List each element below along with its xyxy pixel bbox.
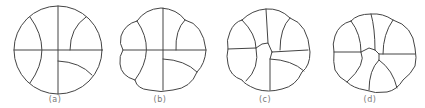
panel-d: (d) [317,0,423,108]
panel-label-c: (c) [212,95,318,104]
panel-c: (c) [212,0,318,108]
cell-division-diagram-a [2,0,108,95]
panel-label-b: (b) [107,95,213,104]
panel-b: (b) [107,0,213,108]
cell-division-diagram-c [212,0,318,95]
panel-a: (a) [2,0,108,108]
panel-label-d: (d) [317,95,423,104]
panel-label-a: (a) [2,95,108,104]
cell-division-diagram-d [317,0,423,95]
cell-division-diagram-b [107,0,213,95]
